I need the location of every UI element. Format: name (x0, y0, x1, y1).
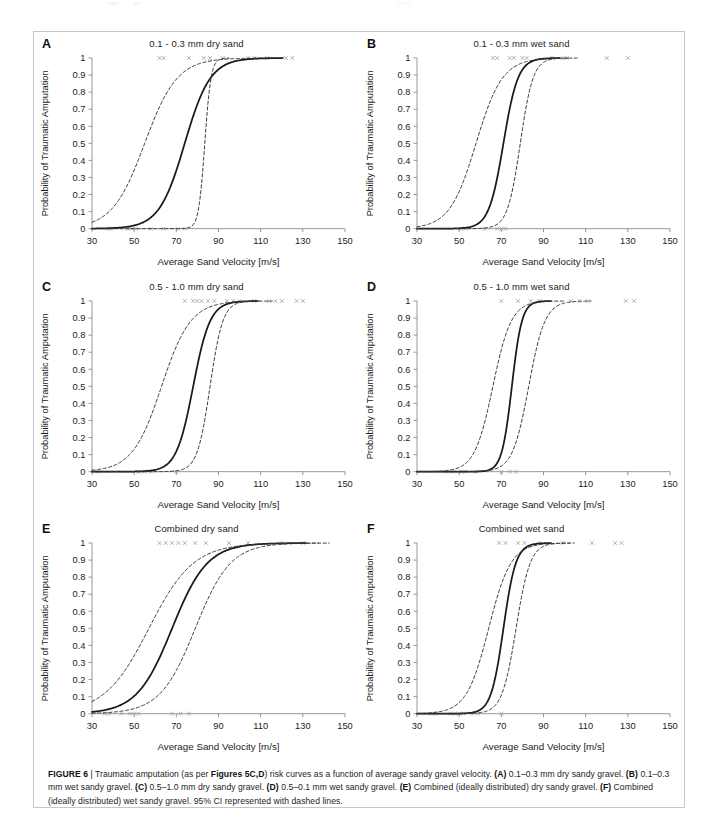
y-tick-label: 1 (405, 296, 410, 306)
caption-panel-label: (F) (600, 782, 611, 792)
x-tick-label: 110 (578, 478, 593, 488)
caption-text: 0.5–1.0 mm dry sandy gravel. (147, 782, 266, 792)
caption-text: Traumatic amputation (as per (95, 769, 211, 779)
panel-C: C 0.5 - 1.0 mm dry sand 3050709011013015… (34, 275, 359, 518)
x-tick-label: 150 (662, 236, 678, 246)
y-tick-label: 0.2 (73, 190, 86, 200)
y-tick-label: 0.7 (73, 104, 86, 114)
panel-F: F Combined wet sand 3050709011013015000.… (359, 517, 684, 760)
x-tick-label: 110 (253, 478, 268, 488)
y-axis-ticks: 00.10.20.30.40.50.60.70.80.91 (73, 539, 92, 720)
x-tick-label: 30 (87, 236, 97, 246)
x-axis-label: Average Sand Velocity [m/s] (482, 256, 604, 267)
x-tick-label: 70 (171, 478, 181, 488)
caption-body: FIGURE 6 | Traumatic amputation (as per … (48, 769, 669, 806)
y-tick-label: 0.5 (73, 139, 86, 149)
y-tick-label: 1 (405, 539, 410, 549)
y-tick-label: 0.9 (73, 70, 86, 80)
ci-curve (417, 58, 570, 229)
x-tick-label: 130 (620, 236, 636, 246)
ci-curve (92, 58, 229, 229)
y-axis-ticks: 00.10.20.30.40.50.60.70.80.91 (73, 53, 92, 234)
axes (417, 58, 670, 229)
y-tick-label: 0.4 (73, 156, 86, 166)
y-axis-ticks: 00.10.20.30.40.50.60.70.80.91 (398, 296, 417, 477)
x-tick-label: 150 (662, 478, 678, 488)
scan-artifact (108, 2, 117, 5)
x-tick-label: 130 (620, 478, 636, 488)
y-tick-label: 0.9 (398, 313, 411, 323)
ci-curve (92, 301, 272, 470)
ci-curve (92, 543, 329, 713)
y-tick-label: 0 (405, 709, 410, 719)
y-axis-ticks: 00.10.20.30.40.50.60.70.80.91 (73, 296, 92, 477)
risk-curve (417, 301, 551, 472)
y-tick-label: 1 (405, 53, 410, 63)
y-tick-label: 0.1 (398, 450, 411, 460)
y-tick-label: 0 (405, 224, 410, 234)
y-axis-label: Probability of Traumatic Amputation (40, 556, 50, 702)
risk-curve (417, 543, 551, 714)
x-tick-label: 50 (129, 478, 139, 488)
scan-artifact (398, 2, 410, 5)
y-tick-label: 0.6 (398, 364, 411, 374)
x-axis-ticks: 30507090110130150 (412, 471, 678, 488)
caption-text: ) risk curves as a function of average s… (264, 769, 494, 779)
y-tick-label: 0.9 (73, 313, 86, 323)
ci-curve (417, 58, 577, 227)
x-axis-ticks: 30507090110130150 (412, 229, 678, 246)
y-tick-label: 0.8 (73, 330, 86, 340)
plot-area: 3050709011013015000.10.20.30.40.50.60.70… (359, 275, 684, 518)
panel-B: B 0.1 - 0.3 mm wet sand 3050709011013015… (359, 32, 684, 275)
x-axis-label: Average Sand Velocity [m/s] (157, 498, 279, 509)
y-tick-label: 0.1 (73, 207, 86, 217)
x-tick-label: 30 (87, 478, 97, 488)
y-tick-label: 0.8 (398, 330, 411, 340)
x-tick-label: 110 (253, 721, 268, 731)
y-tick-label: 0.3 (398, 658, 411, 668)
data-point-markers (445, 299, 636, 473)
y-tick-label: 0.3 (73, 415, 86, 425)
x-axis-label: Average Sand Velocity [m/s] (157, 741, 279, 752)
y-axis-ticks: 00.10.20.30.40.50.60.70.80.91 (398, 53, 417, 234)
y-tick-label: 0.7 (73, 347, 86, 357)
plot-area: 3050709011013015000.10.20.30.40.50.60.70… (34, 517, 359, 760)
y-tick-label: 0 (80, 224, 85, 234)
y-tick-label: 0.8 (73, 87, 86, 97)
y-tick-label: 1 (80, 539, 85, 549)
panel-grid: A 0.1 - 0.3 mm dry sand 3050709011013015… (34, 32, 684, 760)
risk-curve (92, 301, 258, 472)
y-axis-label: Probability of Traumatic Amputation (365, 556, 375, 702)
x-axis-ticks: 30507090110130150 (87, 471, 353, 488)
ci-curve (417, 543, 574, 713)
y-tick-label: 0.8 (398, 87, 411, 97)
y-tick-label: 0 (405, 467, 410, 477)
caption-panel-label: (A) (494, 769, 506, 779)
y-axis-label: Probability of Traumatic Amputation (365, 313, 375, 459)
risk-curve (417, 58, 559, 229)
y-tick-label: 0.7 (398, 590, 411, 600)
caption-text: 95% CI represented with dashed lines. (191, 796, 342, 806)
x-tick-label: 30 (412, 721, 422, 731)
data-point-markers (107, 56, 294, 230)
y-tick-label: 0.5 (398, 624, 411, 634)
plot-area: 3050709011013015000.10.20.30.40.50.60.70… (34, 275, 359, 518)
caption-text: Combined (ideally distributed) dry sandy… (411, 782, 600, 792)
plot-area: 3050709011013015000.10.20.30.40.50.60.70… (359, 32, 684, 275)
x-tick-label: 130 (620, 721, 636, 731)
x-tick-label: 150 (662, 721, 678, 731)
y-tick-label: 0.4 (73, 398, 86, 408)
plot-area: 3050709011013015000.10.20.30.40.50.60.70… (34, 32, 359, 275)
y-tick-label: 0.4 (398, 398, 411, 408)
data-point-markers (430, 541, 624, 715)
caption-panel-label: (C) (135, 782, 147, 792)
y-tick-label: 0.5 (73, 624, 86, 634)
plot-area: 3050709011013015000.10.20.30.40.50.60.70… (359, 517, 684, 760)
y-tick-label: 0.5 (73, 381, 86, 391)
y-tick-label: 0.5 (398, 139, 411, 149)
y-tick-label: 0 (80, 467, 85, 477)
y-tick-label: 0.3 (398, 173, 411, 183)
y-tick-label: 0.7 (398, 104, 411, 114)
y-axis-label: Probability of Traumatic Amputation (365, 70, 375, 216)
caption-figure-reference: Figures 5C,D (211, 769, 265, 779)
